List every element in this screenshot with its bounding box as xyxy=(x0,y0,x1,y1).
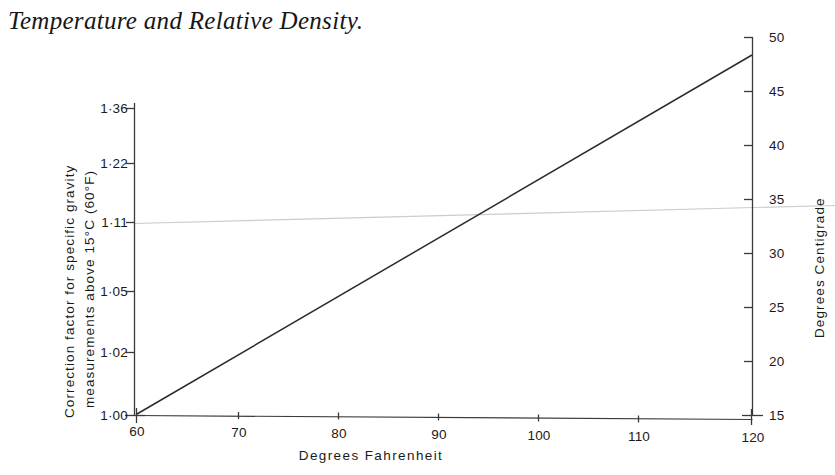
yaxis-left-title-line2: measurements above 15°C (60°F) xyxy=(82,170,97,408)
plot-canvas xyxy=(0,0,835,475)
chart-figure: Temperature and Relative Density. xyxy=(0,0,835,475)
xtick-7: 120 xyxy=(741,430,764,445)
yaxis-left-title-line1: Correction factor for specific gravity xyxy=(62,165,77,418)
ytick-right-5: 30 xyxy=(769,246,784,261)
ytick-right-1: 50 xyxy=(769,30,784,45)
xtick-1: 60 xyxy=(129,424,144,439)
xaxis-title: Degrees Fahrenheit xyxy=(299,448,444,463)
bottom-axis-line xyxy=(135,416,753,420)
ytick-right-4: 35 xyxy=(769,192,784,207)
xtick-2: 70 xyxy=(231,425,246,440)
ytick-left-6: 1·00 xyxy=(82,408,128,423)
xtick-4: 90 xyxy=(431,427,446,442)
ytick-left-1: 1·36 xyxy=(82,101,128,116)
ytick-right-3: 40 xyxy=(769,138,784,153)
xtick-5: 100 xyxy=(527,428,550,443)
data-line-conversion xyxy=(137,55,752,414)
ytick-right-7: 20 xyxy=(769,354,784,369)
ytick-left-2: 1·22 xyxy=(82,156,128,171)
ytick-right-8: 15 xyxy=(769,408,784,423)
ytick-right-6: 25 xyxy=(769,300,784,315)
yaxis-right-title: Degrees Centigrade xyxy=(812,197,827,338)
xtick-3: 80 xyxy=(331,426,346,441)
xtick-6: 110 xyxy=(628,429,650,444)
ytick-right-2: 45 xyxy=(769,84,784,99)
faint-reference-line xyxy=(134,206,835,224)
